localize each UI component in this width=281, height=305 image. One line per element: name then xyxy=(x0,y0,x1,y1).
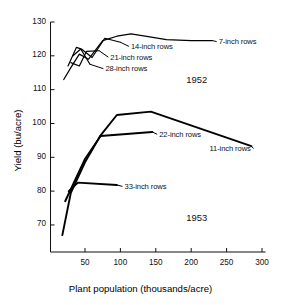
y-tick-label-100: 100 xyxy=(22,118,46,127)
y-tick-label-130: 130 xyxy=(22,17,46,26)
x-tick-label-300: 300 xyxy=(248,258,276,267)
leader-14-inch-rows xyxy=(120,42,128,46)
series-label-11-inch-rows: 11-inch rows xyxy=(209,144,250,153)
leader-33-inch-rows xyxy=(117,185,123,186)
series-label-21-inch-rows: 21-inch rows xyxy=(110,53,152,62)
x-axis-title: Plant population (thousands/acre) xyxy=(0,283,281,294)
y-tick-label-120: 120 xyxy=(22,50,46,59)
x-tick-label-200: 200 xyxy=(177,258,205,267)
y-tick-label-110: 110 xyxy=(22,84,46,93)
leader-28-inch-rows xyxy=(90,64,103,68)
x-tick-label-150: 150 xyxy=(142,258,170,267)
leader-22-inch-rows xyxy=(152,132,157,134)
series-line-11-inch-rows xyxy=(62,112,251,235)
series-label-22-inch-rows: 22-inch rows xyxy=(159,130,201,139)
x-tick-label-250: 250 xyxy=(213,258,241,267)
series-label-33-inch-rows: 33-inch rows xyxy=(125,182,167,191)
x-tick-label-50: 50 xyxy=(71,258,99,267)
leader-21-inch-rows xyxy=(99,51,108,57)
series-label-14-inch-rows: 14-inch rows xyxy=(131,42,173,51)
annotation-1952: 1952 xyxy=(186,74,207,85)
y-tick-label-90: 90 xyxy=(22,152,46,161)
series-label-7-inch-rows: 7-inch rows xyxy=(219,37,257,46)
leader-11-inch-rows xyxy=(251,146,253,148)
x-tick-label-100: 100 xyxy=(106,258,134,267)
annotation-1953: 1953 xyxy=(186,212,207,223)
chart-figure: Yield (bu/acre) Plant population (thousa… xyxy=(0,0,281,305)
y-tick-label-70: 70 xyxy=(22,219,46,228)
series-label-28-inch-rows: 28-inch rows xyxy=(105,64,147,73)
series-line-33-inch-rows xyxy=(69,183,117,191)
y-tick-label-80: 80 xyxy=(22,186,46,195)
leader-7-inch-rows xyxy=(212,41,216,42)
y-axis-title: Yield (bu/acre) xyxy=(12,86,23,196)
